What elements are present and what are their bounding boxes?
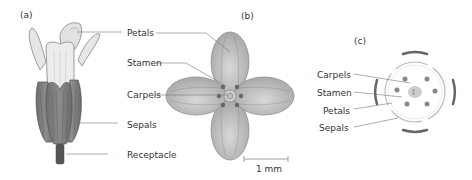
- label-sepals: Sepals: [127, 120, 157, 130]
- label-petals: Petals: [127, 28, 154, 38]
- label-receptacle: Receptacle: [127, 150, 177, 160]
- label-carpels: Carpels: [127, 90, 161, 100]
- flower-diagram: [0, 0, 472, 180]
- panel-label-b: (b): [241, 11, 254, 21]
- panel-label-a: (a): [20, 10, 33, 20]
- floral-diagram: [375, 52, 455, 132]
- label-c-carpels: Carpels: [317, 70, 351, 80]
- label-c-sepals: Sepals: [319, 123, 349, 133]
- panel-label-c: (c): [354, 36, 366, 46]
- scale-bar-label: 1 mm: [256, 164, 282, 174]
- flower-top-view: [166, 32, 294, 160]
- scale-bar: [244, 156, 288, 162]
- label-c-stamen: Stamen: [317, 88, 352, 98]
- label-c-petals: Petals: [323, 106, 350, 116]
- flower-side-view: [29, 23, 100, 164]
- label-stamen: Stamen: [127, 58, 162, 68]
